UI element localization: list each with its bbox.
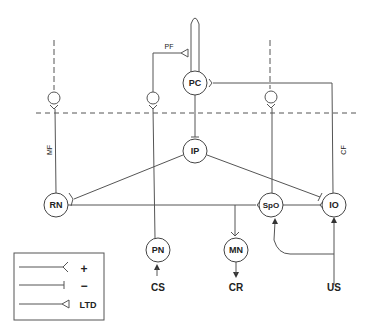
legend-excitatory-label: + xyxy=(80,262,87,276)
granule-cell-middle xyxy=(147,92,159,104)
cf-label: CF xyxy=(340,145,347,154)
granule-cell-right xyxy=(265,91,277,103)
us-to-io-arrowhead xyxy=(331,217,337,223)
node-pn-label: PN xyxy=(152,245,165,255)
legend-inhibitory-label: − xyxy=(80,279,87,293)
cr-label: CR xyxy=(229,282,243,293)
node-io-label: IO xyxy=(329,200,339,210)
mf-line xyxy=(55,109,56,193)
us-label: US xyxy=(327,282,341,293)
node-mn-label: MN xyxy=(229,245,243,255)
cf-line xyxy=(213,83,333,193)
granule-cell-left xyxy=(48,92,60,104)
pf-line xyxy=(153,53,181,92)
mf-label: MF xyxy=(46,145,53,155)
node-pc-label: PC xyxy=(189,78,202,88)
us-to-spo-arrowhead xyxy=(272,218,278,224)
node-rn-label: RN xyxy=(50,200,63,210)
legend-ltd-label: LTD xyxy=(80,300,97,310)
pf-ltd-triangle xyxy=(181,49,188,57)
pc-dendrite-loop xyxy=(191,18,199,72)
node-spo-label: SpO xyxy=(263,201,279,210)
node-ip-label: IP xyxy=(191,146,200,156)
cs-label: CS xyxy=(151,282,165,293)
pf-label: PF xyxy=(165,43,174,50)
circuit-diagram xyxy=(0,0,373,336)
